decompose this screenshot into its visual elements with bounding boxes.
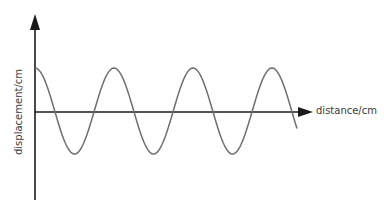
x-axis-label: distance/cm xyxy=(316,105,377,116)
y-axis-label: displacement/cm xyxy=(13,69,24,155)
x-axis-arrowhead-icon xyxy=(298,107,313,117)
wave-curve xyxy=(35,68,297,154)
y-axis-arrowhead-icon xyxy=(30,14,40,30)
